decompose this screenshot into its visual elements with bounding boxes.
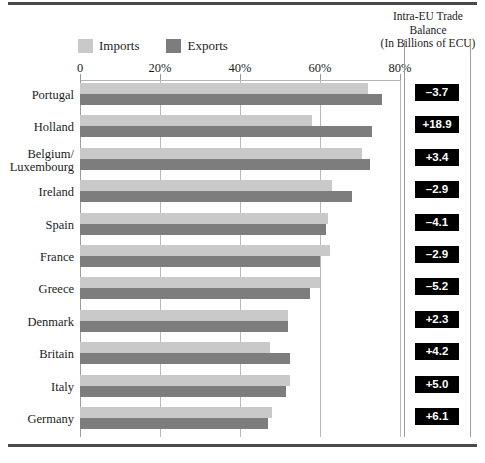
country-label-line1: Denmark [0,316,74,329]
plot-area: Portugal–3.7Holland+18.9Belgium/Luxembou… [0,80,485,437]
chart-row: Italy+5.0 [0,375,485,407]
country-label: Spain [0,219,74,232]
intra-eu-trade-chart: Intra-EU Trade Balance (In Billions of E… [0,0,485,463]
balance-header-line1: Intra-EU Trade [372,10,484,24]
country-label-line1: France [0,251,74,264]
country-label-line1: Belgium/ [0,148,74,161]
bottom-rule [8,444,477,447]
bar-exports [80,191,352,202]
country-label-line1: Italy [0,381,74,394]
bar-imports [80,213,328,224]
bar-imports [80,342,270,353]
country-label-line2: Luxembourg [0,161,74,174]
legend-swatch-imports-icon [78,39,93,53]
country-label: Germany [0,413,74,426]
bar-exports [80,386,286,397]
bar-imports [80,115,312,126]
bar-imports [80,375,290,386]
balance-badge: +4.2 [415,343,459,360]
bar-imports [80,407,272,418]
chart-row: Britain+4.2 [0,342,485,374]
balance-badge: +18.9 [415,116,459,133]
bar-imports [80,245,330,256]
country-label-line1: Britain [0,348,74,361]
country-label: Greece [0,283,74,296]
country-label-line1: Portugal [0,89,74,102]
chart-row: Ireland–2.9 [0,180,485,212]
legend-swatch-exports-icon [166,39,181,53]
chart-row: Greece–5.2 [0,277,485,309]
chart-row: Spain–4.1 [0,213,485,245]
chart-row: Holland+18.9 [0,115,485,147]
country-label: Britain [0,348,74,361]
bar-exports [80,288,310,299]
balance-badge: –3.7 [415,84,459,101]
top-rule [8,2,477,5]
country-label: Belgium/Luxembourg [0,148,74,174]
bar-imports [80,148,362,159]
bar-exports [80,224,326,235]
balance-badge: +2.3 [415,311,459,328]
balance-badge: –4.1 [415,214,459,231]
balance-badge: +3.4 [415,149,459,166]
balance-badge: –5.2 [415,278,459,295]
country-label: Holland [0,121,74,134]
bar-exports [80,94,382,105]
balance-header-line2: Balance [372,24,484,38]
x-axis-tick-labels: 020%40%60%80% [0,61,485,75]
legend-item-exports: Exports [166,38,227,54]
chart-row: Denmark+2.3 [0,310,485,342]
bar-exports [80,159,370,170]
country-label-line1: Spain [0,219,74,232]
balance-header-line3: (In Billions of ECU) [372,37,484,51]
balance-badge: –2.9 [415,246,459,263]
chart-legend: Imports Exports [78,38,246,54]
balance-badge: –2.9 [415,181,459,198]
country-label-line1: Greece [0,283,74,296]
balance-header: Intra-EU Trade Balance (In Billions of E… [372,10,484,51]
bar-exports [80,256,320,267]
legend-label-imports: Imports [99,38,139,54]
bar-exports [80,321,288,332]
bar-imports [80,180,332,191]
legend-label-exports: Exports [187,38,227,54]
chart-row: Belgium/Luxembourg+3.4 [0,148,485,180]
chart-row: Portugal–3.7 [0,83,485,115]
legend-item-imports: Imports [78,38,139,54]
bar-exports [80,126,372,137]
bar-imports [80,83,368,94]
balance-badge: +6.1 [415,408,459,425]
country-label: France [0,251,74,264]
country-label: Portugal [0,89,74,102]
country-label: Italy [0,381,74,394]
country-label: Ireland [0,186,74,199]
chart-row: France–2.9 [0,245,485,277]
balance-badge: +5.0 [415,376,459,393]
bar-imports [80,310,288,321]
country-label-line1: Ireland [0,186,74,199]
chart-row: Germany+6.1 [0,407,485,439]
country-label-line1: Germany [0,413,74,426]
bar-imports [80,277,320,288]
bar-exports [80,353,290,364]
country-label: Denmark [0,316,74,329]
country-label-line1: Holland [0,121,74,134]
bar-exports [80,418,268,429]
